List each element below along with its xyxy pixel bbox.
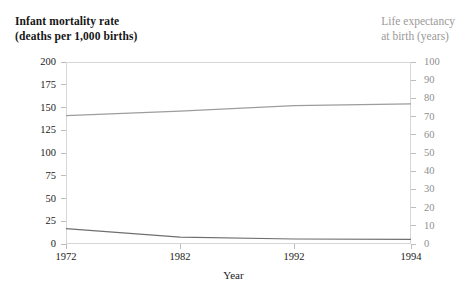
x-axis-label: Year [0, 269, 467, 281]
x-tick-label: 1972 [44, 251, 88, 262]
left-tick-label: 200 [22, 56, 56, 67]
left-tick-mark [61, 198, 66, 199]
right-tick-mark [411, 225, 416, 226]
right-tick-label: 50 [424, 147, 435, 158]
x-tick-mark [180, 244, 181, 249]
chart-figure: Infant mortality rate (deaths per 1,000 … [0, 0, 467, 293]
left-tick-label: 25 [22, 215, 56, 226]
right-tick-mark [411, 207, 416, 208]
right-tick-mark [411, 134, 416, 135]
left-tick-label: 175 [22, 79, 56, 90]
right-axis-title-line2: at birth (years) [381, 29, 455, 44]
right-tick-label: 80 [424, 92, 435, 103]
right-tick-label: 90 [424, 74, 435, 85]
right-tick-mark [411, 171, 416, 172]
left-tick-label: 100 [22, 147, 56, 158]
left-tick-label: 150 [22, 102, 56, 113]
left-tick-mark [61, 221, 66, 222]
x-tick-mark [294, 244, 295, 249]
left-tick-label: 75 [22, 170, 56, 181]
x-tick-label: 1994 [389, 251, 433, 262]
x-tick-label: 1982 [158, 251, 202, 262]
scan-edge-artifact [82, 0, 202, 4]
left-tick-mark [61, 153, 66, 154]
right-tick-mark [411, 153, 416, 154]
right-tick-mark [411, 62, 416, 63]
x-tick-mark [411, 244, 412, 249]
right-tick-label: 70 [424, 111, 435, 122]
left-tick-mark [61, 107, 66, 108]
left-tick-mark [61, 175, 66, 176]
left-tick-label: 0 [22, 238, 56, 249]
left-tick-label: 50 [22, 193, 56, 204]
right-tick-mark [411, 116, 416, 117]
right-tick-label: 20 [424, 202, 435, 213]
x-tick-mark [66, 244, 67, 249]
left-axis-title-line2: (deaths per 1,000 births) [15, 29, 137, 44]
left-tick-mark [61, 130, 66, 131]
right-tick-label: 60 [424, 129, 435, 140]
right-tick-mark [411, 98, 416, 99]
plot-lines [66, 62, 411, 244]
right-tick-mark [411, 80, 416, 81]
left-axis-title-line1: Infant mortality rate [15, 15, 119, 27]
right-tick-mark [411, 189, 416, 190]
right-tick-label: 30 [424, 183, 435, 194]
right-tick-label: 100 [424, 56, 440, 67]
left-tick-label: 125 [22, 124, 56, 135]
left-tick-mark [61, 84, 66, 85]
right-tick-label: 40 [424, 165, 435, 176]
right-axis-title: Life expectancy at birth (years) [381, 14, 455, 44]
right-tick-label: 0 [424, 238, 429, 249]
life-expectancy-line [66, 104, 411, 116]
right-axis-title-line1: Life expectancy [381, 15, 455, 27]
left-axis-title: Infant mortality rate (deaths per 1,000 … [15, 14, 137, 44]
x-tick-label: 1992 [272, 251, 316, 262]
infant-mortality-line [66, 229, 411, 240]
right-tick-label: 10 [424, 220, 435, 231]
left-tick-mark [61, 62, 66, 63]
